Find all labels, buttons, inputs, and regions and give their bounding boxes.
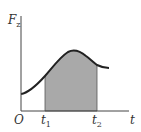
y-axis-label-subscript: z [16,20,20,29]
t1-label: t1 [41,114,51,129]
origin-label: O [14,114,24,126]
t1-label-subscript: 1 [46,120,51,129]
t2-label: t2 [92,114,102,129]
x-axis-label: t [130,114,135,126]
t2-label-subscript: 2 [97,120,102,129]
y-axis-label: Fz [8,14,21,29]
